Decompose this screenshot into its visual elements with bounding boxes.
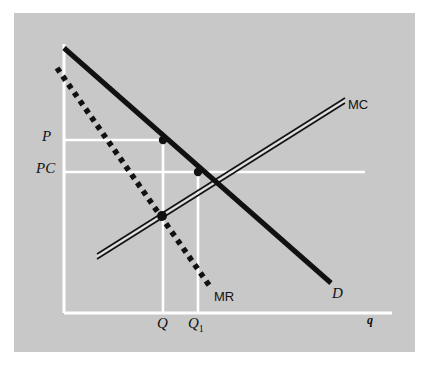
curve-mr bbox=[57, 68, 211, 288]
chart-figure: P PC Q Q1 MR MC D q bbox=[0, 0, 434, 368]
marker-monopoly-price-point bbox=[159, 136, 167, 144]
axis-label-quantity: q bbox=[367, 314, 373, 326]
axis-label-quantity-competitive-subscript: 1 bbox=[199, 323, 204, 334]
axis-label-price-monopoly: P bbox=[42, 129, 51, 144]
curve-label-marginal-cost: MC bbox=[348, 98, 368, 111]
axis-label-price-competitive: PC bbox=[36, 161, 55, 176]
marker-mr-mc-intersection bbox=[157, 211, 167, 221]
axis-label-quantity-competitive: Q1 bbox=[188, 316, 204, 334]
marker-competitive-point bbox=[194, 168, 202, 176]
curve-label-demand: D bbox=[332, 286, 343, 301]
axis-label-quantity-monopoly: Q bbox=[157, 316, 168, 331]
curve-label-marginal-revenue: MR bbox=[214, 290, 234, 303]
axis-label-quantity-competitive-base: Q bbox=[188, 315, 199, 331]
